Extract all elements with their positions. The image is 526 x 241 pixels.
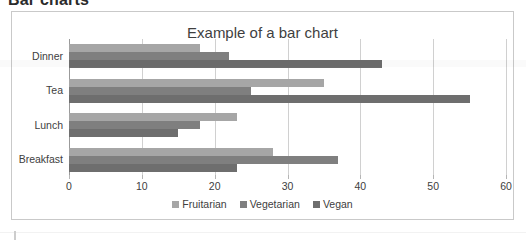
x-axis-tick-labels: 0102030405060 bbox=[69, 180, 506, 194]
bar-breakfast-fruitarian bbox=[69, 148, 273, 156]
x-tick-label-30: 30 bbox=[282, 180, 294, 192]
x-tick-mark-30 bbox=[288, 175, 289, 179]
bar-dinner-vegetarian bbox=[69, 52, 229, 60]
x-tick-mark-60 bbox=[506, 175, 507, 179]
x-tick-label-10: 10 bbox=[136, 180, 148, 192]
bar-tea-vegan bbox=[69, 95, 470, 103]
plot-area: DinnerTeaLunchBreakfast bbox=[69, 39, 506, 177]
bar-tea-vegetarian bbox=[69, 87, 251, 95]
category-label-breakfast: Breakfast bbox=[19, 154, 63, 165]
category-label-tea: Tea bbox=[46, 85, 63, 96]
x-tick-label-40: 40 bbox=[354, 180, 366, 192]
legend-item-fruitarian[interactable]: Fruitarian bbox=[172, 198, 226, 210]
legend-label: Vegan bbox=[323, 198, 353, 210]
legend-swatch-icon bbox=[240, 201, 247, 208]
x-tick-mark-20 bbox=[215, 175, 216, 179]
page-footer-mark bbox=[14, 231, 16, 240]
page-heading: Bar charts bbox=[8, 0, 89, 8]
legend-swatch-icon bbox=[172, 201, 179, 208]
x-tick-mark-40 bbox=[360, 175, 361, 179]
x-tick-label-20: 20 bbox=[209, 180, 221, 192]
legend-label: Fruitarian bbox=[182, 198, 226, 210]
bar-tea-fruitarian bbox=[69, 79, 324, 87]
bar-breakfast-vegetarian bbox=[69, 156, 338, 164]
x-tick-mark-50 bbox=[433, 175, 434, 179]
legend-label: Vegetarian bbox=[250, 198, 300, 210]
category-group: Lunch bbox=[69, 108, 506, 143]
category-label-lunch: Lunch bbox=[34, 120, 63, 131]
chart-frame: Example of a bar chart DinnerTeaLunchBre… bbox=[11, 11, 514, 220]
bar-lunch-vegetarian bbox=[69, 121, 200, 129]
category-group: Breakfast bbox=[69, 143, 506, 178]
category-group: Dinner bbox=[69, 39, 506, 74]
x-tick-label-0: 0 bbox=[66, 180, 72, 192]
bar-lunch-fruitarian bbox=[69, 113, 237, 121]
category-label-dinner: Dinner bbox=[32, 51, 63, 62]
x-tick-mark-0 bbox=[69, 175, 70, 179]
x-tick-label-60: 60 bbox=[500, 180, 512, 192]
x-tick-mark-10 bbox=[142, 175, 143, 179]
category-group: Tea bbox=[69, 74, 506, 109]
gridline-60 bbox=[506, 39, 507, 177]
page-footer-rule bbox=[0, 232, 526, 233]
legend-item-vegan[interactable]: Vegan bbox=[313, 198, 353, 210]
legend-swatch-icon bbox=[313, 201, 320, 208]
bar-lunch-vegan bbox=[69, 129, 178, 137]
chart-legend: FruitarianVegetarianVegan bbox=[12, 198, 513, 210]
bar-dinner-vegan bbox=[69, 60, 382, 68]
bar-dinner-fruitarian bbox=[69, 44, 200, 52]
legend-item-vegetarian[interactable]: Vegetarian bbox=[240, 198, 300, 210]
bar-breakfast-vegan bbox=[69, 164, 237, 172]
x-tick-label-50: 50 bbox=[427, 180, 439, 192]
